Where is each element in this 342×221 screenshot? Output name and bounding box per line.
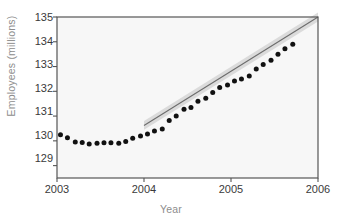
data-point bbox=[203, 96, 208, 101]
data-point bbox=[73, 140, 78, 145]
data-point bbox=[275, 52, 280, 57]
data-point bbox=[188, 105, 193, 110]
data-point bbox=[239, 76, 244, 81]
data-point bbox=[160, 126, 165, 131]
data-point bbox=[182, 107, 187, 112]
data-point bbox=[108, 140, 113, 145]
data-point bbox=[138, 133, 143, 138]
data-point bbox=[123, 139, 128, 144]
data-point bbox=[80, 140, 85, 145]
data-point bbox=[217, 85, 222, 90]
data-point bbox=[58, 132, 63, 137]
data-point bbox=[261, 62, 266, 67]
data-point bbox=[65, 135, 70, 140]
data-point bbox=[152, 128, 157, 133]
plot-area bbox=[0, 0, 342, 221]
data-point bbox=[167, 118, 172, 123]
data-point bbox=[145, 131, 150, 136]
data-point bbox=[290, 42, 295, 47]
data-point bbox=[116, 141, 121, 146]
data-point bbox=[247, 73, 252, 78]
data-point bbox=[269, 58, 274, 63]
data-point bbox=[101, 140, 106, 145]
data-point bbox=[195, 99, 200, 104]
data-point bbox=[130, 136, 135, 141]
data-point bbox=[225, 83, 230, 88]
data-point bbox=[254, 67, 259, 72]
data-point bbox=[282, 46, 287, 51]
chart-figure: Employees (millions) 135 134 133 132 131… bbox=[0, 0, 342, 221]
data-point bbox=[210, 90, 215, 95]
data-point bbox=[232, 78, 237, 83]
data-point bbox=[174, 114, 179, 119]
data-point bbox=[87, 142, 92, 147]
data-point bbox=[95, 141, 100, 146]
